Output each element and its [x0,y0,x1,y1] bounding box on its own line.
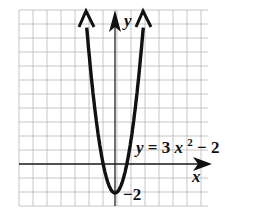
eq-eq: = 3 [148,138,170,157]
eq-exp: 2 [187,136,193,148]
vertex-label: −2 [123,185,141,204]
eq-tail: − 2 [197,138,219,157]
eq-x: x [173,138,183,157]
y-axis-label: y [122,11,132,30]
equation-label: y = 3 x 2 − 2 [134,131,219,157]
parabola-graph: y x −2 y = 3 x 2 − 2 [0,0,254,223]
eq-y: y [134,138,144,157]
right-arrow-icon [136,11,151,27]
grid [19,10,208,206]
left-arrow-icon [79,11,94,27]
x-axis-label: x [191,167,201,186]
